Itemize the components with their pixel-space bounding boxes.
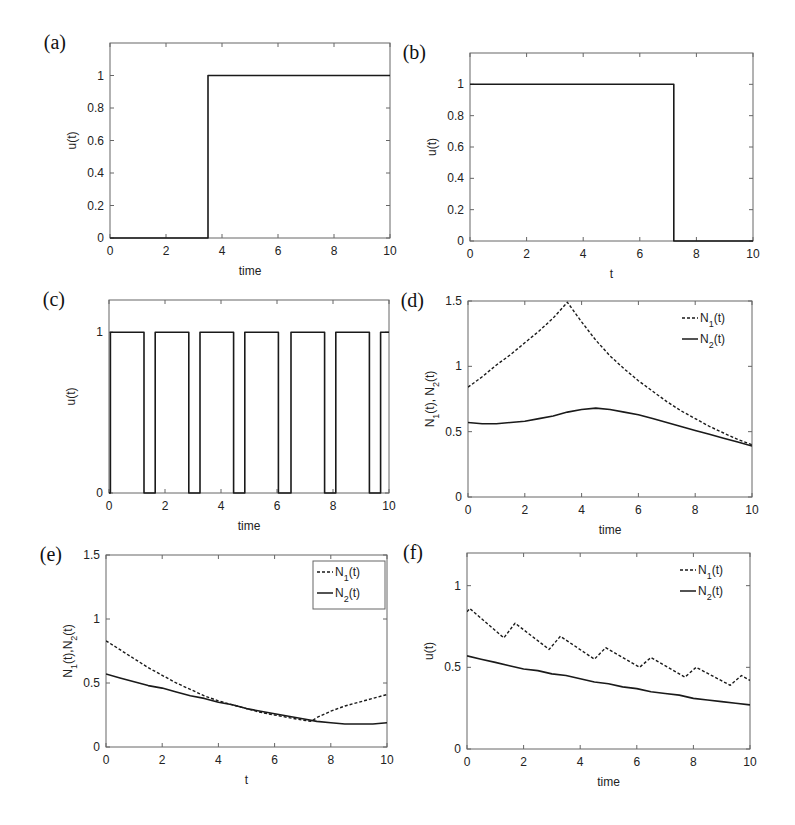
y-tick-label: 0.4: [87, 166, 104, 180]
x-tick-label: 2: [523, 247, 530, 261]
y-axis-label: u(t): [64, 387, 78, 405]
x-tick-label: 0: [467, 247, 474, 261]
x-tick-label: 2: [521, 503, 528, 517]
y-tick-label: 0.2: [87, 199, 104, 213]
figure-caption: [0, 812, 795, 825]
y-tick-label: 1.5: [83, 548, 100, 562]
y-tick-label: 1: [454, 579, 461, 593]
y-tick-label: 0.6: [87, 134, 104, 148]
x-tick-label: 4: [578, 503, 585, 517]
axes-frame: [467, 553, 750, 749]
x-tick-label: 6: [271, 753, 278, 767]
x-tick-label: 6: [274, 499, 281, 513]
x-axis-label: t: [610, 267, 614, 281]
x-tick-label: 8: [690, 755, 697, 769]
x-tick-label: 10: [746, 247, 760, 261]
x-tick-label: 8: [693, 247, 700, 261]
y-tick-label: 1: [93, 612, 100, 626]
x-tick-label: 10: [380, 753, 394, 767]
y-axis-label: u(t): [425, 138, 439, 156]
x-tick-label: 4: [580, 247, 587, 261]
legend-entry: N1(t): [700, 311, 725, 329]
y-tick-label: 0.5: [444, 660, 461, 674]
x-tick-label: 10: [382, 499, 396, 513]
x-tick-label: 4: [218, 499, 225, 513]
x-tick-label: 2: [520, 755, 527, 769]
x-axis-label: time: [597, 775, 620, 789]
y-tick-label: 0: [97, 231, 104, 245]
series-ut: [109, 332, 389, 493]
x-tick-label: 0: [465, 503, 472, 517]
axes-frame: [470, 53, 753, 241]
x-tick-label: 8: [331, 244, 338, 258]
x-tick-label: 0: [106, 499, 113, 513]
panel-label: (c): [43, 288, 65, 311]
y-tick-label: 1.5: [445, 294, 462, 308]
y-axis-label: u(t): [422, 642, 436, 660]
y-tick-label: 1: [455, 359, 462, 373]
x-tick-label: 4: [577, 755, 584, 769]
panel-e: 024681000.511.5tN1(t),N2(t)(e)N1(t)N2(t): [40, 543, 394, 787]
x-tick-label: 2: [163, 244, 170, 258]
y-axis-label: N1(t), N2(t): [423, 371, 441, 428]
x-axis-label: time: [238, 519, 261, 533]
x-tick-label: 6: [275, 244, 282, 258]
x-tick-label: 2: [159, 753, 166, 767]
y-tick-label: 0.5: [83, 676, 100, 690]
axes-frame: [110, 43, 390, 238]
x-tick-label: 6: [635, 503, 642, 517]
y-tick-label: 0.8: [447, 109, 464, 123]
y-axis-label: u(t): [65, 131, 79, 149]
panel-b: 024681000.20.40.60.81tu(t)(b): [403, 41, 760, 281]
panel-f: 024681000.51timeu(t)(f)N1(t)N2(t): [403, 541, 757, 789]
x-tick-label: 2: [162, 499, 169, 513]
y-tick-label: 0.5: [445, 425, 462, 439]
x-axis-label: t: [245, 773, 249, 787]
y-tick-label: 0: [93, 740, 100, 754]
y-tick-label: 0: [454, 742, 461, 756]
axes-frame: [109, 300, 389, 493]
panel-label: (b): [403, 41, 426, 64]
y-axis-label: N1(t),N2(t): [61, 624, 79, 677]
panel-d: 024681000.511.5timeN1(t), N2(t)(d)N1(t)N…: [401, 289, 759, 537]
x-tick-label: 0: [103, 753, 110, 767]
x-tick-label: 6: [633, 755, 640, 769]
figure-canvas: 024681000.20.40.60.81timeu(t)(a)02468100…: [0, 0, 795, 825]
panel-c: 024681001timeu(t)(c): [43, 288, 396, 533]
x-tick-label: 10: [383, 244, 397, 258]
x-tick-label: 10: [743, 755, 757, 769]
panel-label: (e): [40, 543, 62, 566]
legend-entry: N2(t): [700, 332, 725, 350]
x-axis-label: time: [599, 523, 622, 537]
panel-label: (d): [401, 289, 424, 312]
y-tick-label: 0: [457, 234, 464, 248]
y-tick-label: 0: [455, 490, 462, 504]
y-tick-label: 0.2: [447, 203, 464, 217]
panel-label: (f): [403, 541, 423, 564]
legend-entry: N1(t): [698, 563, 723, 581]
x-tick-label: 4: [219, 244, 226, 258]
series-n1t: [467, 609, 750, 686]
y-tick-label: 0: [96, 486, 103, 500]
x-tick-label: 4: [215, 753, 222, 767]
y-tick-label: 0.4: [447, 171, 464, 185]
panel-label: (a): [44, 31, 66, 54]
legend-entry: N2(t): [698, 584, 723, 602]
y-tick-label: 0.6: [447, 140, 464, 154]
x-tick-label: 8: [330, 499, 337, 513]
y-tick-label: 1: [96, 325, 103, 339]
x-axis-label: time: [239, 264, 262, 278]
y-tick-label: 1: [97, 69, 104, 83]
y-tick-label: 0.8: [87, 101, 104, 115]
panel-a: 024681000.20.40.60.81timeu(t)(a): [44, 31, 397, 278]
x-tick-label: 0: [107, 244, 114, 258]
x-tick-label: 8: [327, 753, 334, 767]
series-n2t: [467, 656, 750, 705]
x-tick-label: 8: [692, 503, 699, 517]
x-tick-label: 10: [745, 503, 759, 517]
series-ut: [110, 76, 390, 239]
y-tick-label: 1: [457, 77, 464, 91]
axes-frame: [468, 301, 752, 497]
series-ut: [470, 84, 753, 241]
series-n2t: [106, 674, 387, 724]
